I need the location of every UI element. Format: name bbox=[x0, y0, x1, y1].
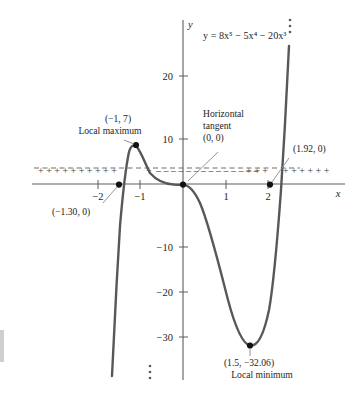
page-margin-rule bbox=[0, 330, 4, 362]
calculus-graph-figure: −2 −1 1 2 20 10 −10 −20 −30 y x + + + + … bbox=[0, 0, 355, 395]
zero-left-label: (−1.30, 0) bbox=[52, 206, 90, 218]
graph-svg: −2 −1 1 2 20 10 −10 −20 −30 y x + + + + … bbox=[0, 0, 355, 395]
y-tick-label-minus30: −30 bbox=[157, 332, 173, 343]
y-tick-label-20: 20 bbox=[163, 71, 174, 82]
sign-segment-positive-left: + + + + + + + + + + bbox=[38, 165, 117, 176]
axes-group: −2 −1 1 2 20 10 −10 −20 −30 y x bbox=[32, 19, 345, 380]
sign-segment-positive-mid: + + + bbox=[246, 165, 268, 176]
leader-local-max bbox=[124, 140, 134, 144]
annotations-group: (−1, 7) Local maximum Horizontal tangent… bbox=[52, 30, 326, 380]
sign-segment-negative: – – – – – – – – – – – – – – bbox=[155, 165, 260, 176]
y-axis-label: y bbox=[187, 19, 193, 30]
continuation-dots-top bbox=[289, 19, 292, 34]
horizontal-tangent-coords: (0, 0) bbox=[203, 132, 224, 144]
x-tick-label-2: 2 bbox=[265, 191, 270, 202]
sign-segment-positive-right: + + + + + + bbox=[283, 165, 330, 176]
leader-zero-left bbox=[103, 187, 117, 203]
x-tick-label-1: 1 bbox=[223, 191, 228, 202]
x-tick-label-minus1: −1 bbox=[134, 191, 145, 202]
continuation-dots-bottom bbox=[149, 365, 152, 380]
y-tick-label-minus10: −10 bbox=[157, 242, 173, 253]
local-min-label: Local minimum bbox=[231, 369, 293, 380]
zero-right-label: (1.92, 0) bbox=[293, 143, 326, 155]
local-max-label: Local maximum bbox=[78, 125, 142, 136]
horizontal-tangent-line2: tangent bbox=[203, 120, 232, 131]
function-curve-group bbox=[112, 46, 289, 376]
x-tick-label-minus2: −2 bbox=[92, 191, 103, 202]
horizontal-tangent-line1: Horizontal bbox=[203, 108, 244, 119]
local-min-coords: (1.5, −32.06) bbox=[224, 357, 274, 369]
y-tick-label-10: 10 bbox=[163, 134, 174, 145]
x-axis-label: x bbox=[335, 188, 341, 199]
sign-chart-group: + + + + + + + + + + + – – – – – – – – – … bbox=[38, 165, 330, 176]
point-zero-left bbox=[116, 182, 122, 188]
point-local-minimum bbox=[247, 342, 253, 348]
curve-right-branch bbox=[183, 46, 289, 346]
local-max-coords: (−1, 7) bbox=[105, 113, 131, 125]
point-zero-right bbox=[267, 182, 273, 188]
point-horizontal-tangent bbox=[180, 182, 186, 188]
y-tick-label-minus20: −20 bbox=[157, 287, 173, 298]
equation-label: y = 8x⁵ − 5x⁴ − 20x³ bbox=[203, 30, 286, 41]
point-local-maximum bbox=[133, 142, 139, 148]
